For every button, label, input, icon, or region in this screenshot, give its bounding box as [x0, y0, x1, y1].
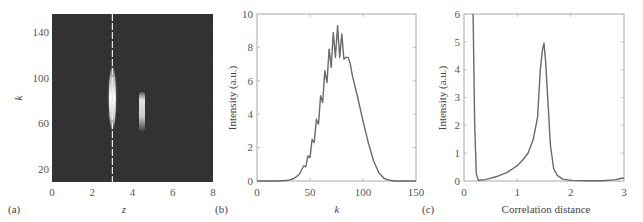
b-xtick: 50 — [305, 186, 317, 198]
plot-frame-c — [464, 14, 624, 181]
b-ytick: 6 — [248, 75, 254, 87]
a-xtick: 0 — [49, 186, 55, 198]
panel-label-b: (b) — [215, 203, 228, 216]
b-xtick: 150 — [408, 186, 425, 198]
a-xtick: 6 — [170, 186, 176, 198]
a-ytick: 20 — [38, 163, 50, 175]
a-xtick: 4 — [130, 186, 136, 198]
c-ytick: 3 — [455, 91, 461, 103]
b-xtick: 100 — [355, 186, 372, 198]
c-ytick: 1 — [455, 147, 461, 159]
b-ytick: 4 — [248, 108, 254, 120]
c-ylabel: Intensity (a.u.) — [436, 65, 449, 130]
c-xlabel: Correlation distance — [502, 203, 591, 215]
b-xlabel: k — [335, 203, 341, 215]
c-xtick: 2 — [568, 186, 574, 198]
b-ytick: 8 — [248, 41, 254, 53]
panel-label-a: (a) — [8, 203, 21, 216]
c-xtick: 3 — [621, 186, 627, 198]
b-ytick: 0 — [248, 175, 254, 187]
c-xtick: 0 — [461, 186, 467, 198]
panel-c: 0 1 2 3 0 1 2 3 4 5 6 Intensity (a.u.) C… — [422, 8, 627, 216]
c-ytick: 5 — [455, 36, 461, 48]
c-ytick: 6 — [455, 8, 461, 20]
c-ytick: 4 — [455, 63, 461, 75]
a-ytick: 60 — [38, 117, 50, 129]
panel-a: 0 2 4 6 8 20 60 100 140 k z (a) — [8, 14, 216, 216]
b-ytick: 10 — [242, 8, 254, 20]
c-xtick: 1 — [515, 186, 521, 198]
bright-spot — [139, 92, 145, 132]
c-ytick: 2 — [455, 119, 461, 131]
c-ytick: 0 — [455, 175, 461, 187]
correlation-line — [473, 14, 624, 181]
panel-label-c: (c) — [422, 203, 435, 216]
a-xlabel: z — [121, 203, 127, 215]
a-ylabel: k — [12, 94, 24, 100]
a-xtick: 8 — [210, 186, 216, 198]
a-ytick: 140 — [33, 26, 50, 38]
a-ytick: 100 — [33, 72, 50, 84]
b-ylabel: Intensity (a.u.) — [226, 65, 239, 130]
b-xtick: 0 — [254, 186, 260, 198]
figure: 0 2 4 6 8 20 60 100 140 k z (a) 0 50 — [0, 0, 643, 222]
panel-b: 0 50 100 150 0 2 4 6 8 10 Intensity (a.u… — [215, 8, 425, 216]
b-ytick: 2 — [248, 141, 254, 153]
a-xtick: 2 — [90, 186, 96, 198]
spectrum-line — [257, 26, 416, 181]
